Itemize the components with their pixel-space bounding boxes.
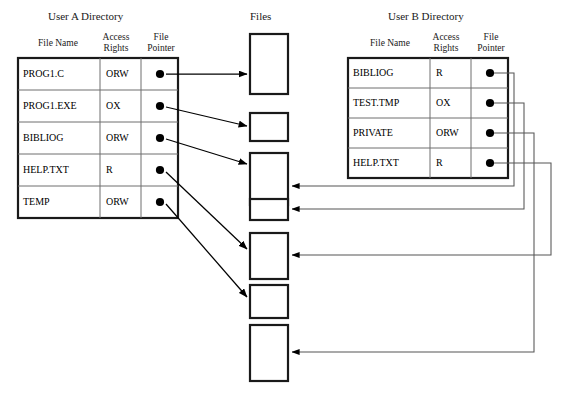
cell-a-access-rights: ORW bbox=[106, 196, 129, 207]
cell-a-access-rights: ORW bbox=[106, 68, 129, 79]
cell-a-access-rights: R bbox=[106, 164, 113, 175]
file-box bbox=[250, 325, 288, 381]
cell-b-access-rights: R bbox=[436, 157, 443, 168]
cell-b-file-name: TEST.TMP bbox=[353, 97, 399, 108]
cell-b-file-name: BIBLIOG bbox=[353, 67, 394, 78]
file-box bbox=[250, 285, 288, 318]
file-box bbox=[250, 34, 288, 94]
cell-a-file-name: TEMP bbox=[23, 196, 50, 207]
file-pointer-dot bbox=[156, 198, 164, 206]
cell-a-access-rights: ORW bbox=[106, 132, 129, 143]
cell-b-access-rights: ORW bbox=[436, 127, 459, 138]
arrow-b-private-to-file7 bbox=[292, 133, 534, 352]
file-pointer-dot bbox=[156, 134, 164, 142]
cell-a-file-name: BIBLIOG bbox=[23, 132, 64, 143]
cell-a-access-rights: OX bbox=[106, 100, 120, 111]
cell-a-file-name: PROG1.C bbox=[23, 68, 64, 79]
diagram-canvas: User A Directory Files User B Directory … bbox=[0, 0, 566, 396]
file-box bbox=[250, 233, 288, 279]
cell-a-file-name: HELP.TXT bbox=[23, 164, 69, 175]
file-box bbox=[250, 199, 288, 220]
file-pointer-dot bbox=[486, 159, 494, 167]
cell-b-file-name: PRIVATE bbox=[353, 127, 393, 138]
connector-layer bbox=[0, 0, 566, 396]
arrow-b-bibliog-to-file3 bbox=[292, 73, 514, 186]
cell-a-file-name: PROG1.EXE bbox=[23, 100, 77, 111]
file-pointer-dot bbox=[156, 70, 164, 78]
file-pointer-dot bbox=[486, 129, 494, 137]
file-box bbox=[250, 153, 288, 205]
arrow-a-temp-to-file6 bbox=[166, 204, 247, 297]
cell-b-access-rights: R bbox=[436, 67, 443, 78]
file-pointer-dot bbox=[486, 69, 494, 77]
user-b-pointer-arrows bbox=[292, 73, 551, 352]
file-pointer-dot bbox=[156, 166, 164, 174]
file-pointer-dot bbox=[156, 102, 164, 110]
file-boxes bbox=[250, 34, 288, 381]
file-pointer-dot bbox=[486, 99, 494, 107]
arrow-b-testtmp-to-file4 bbox=[292, 103, 524, 209]
file-box bbox=[250, 113, 288, 141]
cell-b-file-name: HELP.TXT bbox=[353, 157, 399, 168]
cell-b-access-rights: OX bbox=[436, 97, 450, 108]
